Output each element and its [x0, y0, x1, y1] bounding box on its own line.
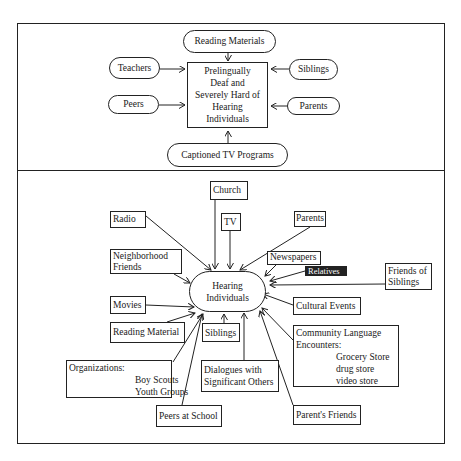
peers-at-school-label: Peers at School	[159, 411, 218, 421]
organizations-node: Organizations: Boy Scouts Youth Groups	[66, 360, 172, 398]
center-line-5: Individuals	[206, 113, 249, 125]
center-line-3: Severely Hard of	[195, 89, 260, 101]
teachers-node: Teachers	[109, 57, 160, 79]
newspapers-label: Newspapers	[270, 252, 316, 262]
community-title-line-2: Encounters:	[296, 339, 396, 351]
friends-of-siblings-node: Friends of Siblings	[385, 263, 432, 290]
hearing-line-1: Hearing	[212, 280, 243, 292]
community-item-video: video store	[296, 375, 396, 387]
reading-material-label: Reading Material	[113, 327, 179, 337]
parents-label-top: Parents	[300, 101, 328, 112]
movies-label: Movies	[113, 300, 142, 310]
siblings-label-top: Siblings	[298, 64, 329, 75]
parents-label-bottom: Parents	[296, 213, 324, 223]
parents-node-bottom: Parents	[294, 211, 326, 227]
movies-node: Movies	[110, 296, 146, 314]
community-item-grocery: Grocery Store	[296, 351, 396, 363]
organizations-item-youth-groups: Youth Groups	[69, 386, 169, 398]
church-node: Church	[210, 181, 248, 200]
peers-label: Peers	[123, 99, 144, 110]
siblings-label-bottom: Siblings	[205, 328, 236, 338]
neighborhood-line-1: Neighborhood	[113, 251, 179, 262]
captioned-tv-label: Captioned TV Programs	[181, 150, 274, 161]
friends-of-siblings-line-2: Siblings	[388, 277, 429, 288]
newspapers-node: Newspapers	[267, 251, 321, 265]
neighborhood-line-2: Friends	[113, 262, 179, 273]
neighborhood-friends-node: Neighborhood Friends	[110, 249, 182, 274]
captioned-tv-node: Captioned TV Programs	[167, 143, 288, 167]
hearing-individuals-node: Hearing Individuals	[189, 271, 266, 312]
relatives-node: Relatives	[305, 266, 347, 276]
reading-materials-label: Reading Materials	[195, 36, 265, 47]
church-label: Church	[213, 185, 241, 195]
reading-materials-node: Reading Materials	[183, 30, 276, 53]
siblings-node-bottom: Siblings	[202, 323, 240, 342]
radio-node: Radio	[110, 211, 146, 228]
tv-node: TV	[221, 213, 241, 231]
community-language-node: Community Language Encounters: Grocery S…	[293, 325, 399, 387]
center-line-4: Hearing	[212, 101, 243, 113]
dialogues-line-2: Significant Others	[204, 376, 276, 388]
peers-node: Peers	[108, 95, 159, 114]
prelingually-deaf-box: Prelingually Deaf and Severely Hard of H…	[187, 62, 268, 128]
center-line-2: Deaf and	[210, 77, 245, 89]
parents-friends-label: Parent's Friends	[296, 410, 357, 420]
relatives-label: Relatives	[308, 266, 340, 276]
radio-label: Radio	[113, 214, 136, 224]
hearing-line-2: Individuals	[206, 292, 249, 304]
dialogues-node: Dialogues with Significant Others	[201, 360, 279, 392]
center-line-1: Prelingually	[204, 65, 250, 77]
cultural-events-node: Cultural Events	[293, 297, 361, 315]
parents-friends-node: Parent's Friends	[293, 405, 361, 425]
organizations-title: Organizations:	[69, 362, 169, 374]
organizations-item-boy-scouts: Boy Scouts	[69, 374, 169, 386]
peers-at-school-node: Peers at School	[156, 405, 222, 427]
tv-label: TV	[224, 217, 237, 227]
community-item-drug: drug store	[296, 363, 396, 375]
siblings-node-top: Siblings	[289, 59, 338, 80]
parents-node-top: Parents	[287, 97, 340, 115]
reading-material-node: Reading Material	[110, 322, 185, 343]
teachers-label: Teachers	[118, 63, 152, 74]
dialogues-line-1: Dialogues with	[204, 364, 276, 376]
friends-of-siblings-line-1: Friends of	[388, 266, 429, 277]
community-title-line-1: Community Language	[296, 327, 396, 339]
cultural-events-label: Cultural Events	[296, 301, 355, 311]
